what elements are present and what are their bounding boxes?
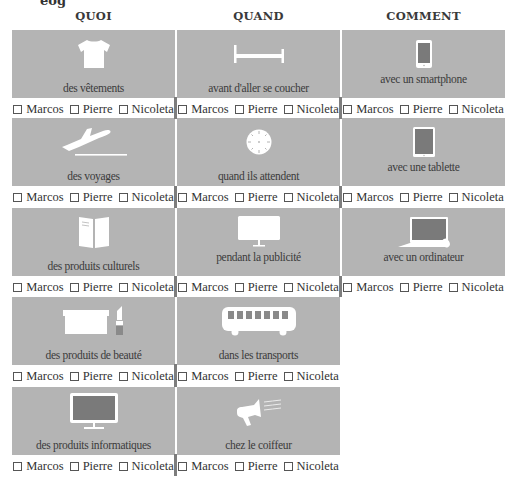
airplane-takeoff-icon: [12, 121, 175, 163]
card-box: avec un smartphone: [342, 30, 505, 98]
card-box: des produits informatiques: [12, 387, 175, 455]
column-heading: QUOI: [12, 9, 175, 23]
checkbox-row: Marcos Pierre Nicoleta: [342, 277, 505, 297]
checkbox-marcos[interactable]: Marcos: [343, 102, 394, 117]
checkbox-marcos[interactable]: Marcos: [178, 459, 229, 474]
bus-icon: [177, 300, 340, 342]
smartphone-icon: [342, 33, 505, 75]
card-label: des produits culturels: [12, 260, 175, 272]
checkbox-nicoleta[interactable]: Nicoleta: [119, 102, 174, 117]
checkbox-row: Marcos Pierre Nicoleta: [12, 187, 175, 207]
tablet-icon: [342, 121, 505, 163]
checkbox-marcos[interactable]: Marcos: [13, 190, 64, 205]
checkbox-nicoleta[interactable]: Nicoleta: [284, 280, 339, 295]
megaphone-icon: [177, 390, 340, 432]
checkbox-marcos[interactable]: Marcos: [178, 369, 229, 384]
checkbox-row: Marcos Pierre Nicoleta: [12, 366, 175, 386]
checkbox-pierre[interactable]: Pierre: [400, 280, 443, 295]
checkbox-row: Marcos Pierre Nicoleta: [177, 187, 340, 207]
checkbox-pierre[interactable]: Pierre: [235, 102, 278, 117]
checkbox-row: Marcos Pierre Nicoleta: [177, 456, 340, 476]
column-heading: COMMENT: [342, 9, 505, 23]
column-heading: QUAND: [177, 9, 340, 23]
checkbox-pierre[interactable]: Pierre: [235, 459, 278, 474]
checkbox-nicoleta[interactable]: Nicoleta: [284, 190, 339, 205]
tshirt-icon: [12, 33, 175, 75]
card-label: pendant la publicité: [177, 251, 340, 263]
checkbox-nicoleta[interactable]: Nicoleta: [284, 369, 339, 384]
checkbox-row: Marcos Pierre Nicoleta: [177, 99, 340, 119]
card-box: avec un ordinateur: [342, 208, 505, 276]
card-label: avec un ordinateur: [342, 251, 505, 263]
checkbox-pierre[interactable]: Pierre: [70, 459, 113, 474]
card-label: chez le coiffeur: [177, 439, 340, 451]
checkbox-nicoleta[interactable]: Nicoleta: [449, 190, 504, 205]
checkbox-row: Marcos Pierre Nicoleta: [12, 99, 175, 119]
checkbox-pierre[interactable]: Pierre: [235, 190, 278, 205]
computer-monitor-icon: [12, 390, 175, 432]
checkbox-nicoleta[interactable]: Nicoleta: [119, 459, 174, 474]
card-box: des voyages: [12, 118, 175, 186]
card-box: avant d'aller se coucher: [177, 30, 340, 98]
card-box: des produits de beauté: [12, 297, 175, 365]
card-box: quand ils attendent: [177, 118, 340, 186]
checkbox-row: Marcos Pierre Nicoleta: [12, 277, 175, 297]
checkbox-row: Marcos Pierre Nicoleta: [177, 366, 340, 386]
card-box: avec une tablette: [342, 118, 505, 186]
tv-screen-icon: [177, 211, 340, 253]
checkbox-marcos[interactable]: Marcos: [13, 459, 64, 474]
checkbox-pierre[interactable]: Pierre: [400, 102, 443, 117]
checkbox-pierre[interactable]: Pierre: [70, 190, 113, 205]
card-box: des produits culturels: [12, 208, 175, 276]
checkbox-row: Marcos Pierre Nicoleta: [342, 99, 505, 119]
checkbox-nicoleta[interactable]: Nicoleta: [119, 190, 174, 205]
checkbox-marcos[interactable]: Marcos: [13, 369, 64, 384]
cut-off-heading: eog: [40, 0, 66, 8]
checkbox-nicoleta[interactable]: Nicoleta: [449, 102, 504, 117]
checkbox-marcos[interactable]: Marcos: [178, 280, 229, 295]
checkbox-marcos[interactable]: Marcos: [178, 102, 229, 117]
card-label: dans les transports: [177, 349, 340, 361]
checkbox-nicoleta[interactable]: Nicoleta: [119, 280, 174, 295]
card-box: chez le coiffeur: [177, 387, 340, 455]
bed-icon: [177, 33, 340, 75]
card-label: avec un smartphone: [342, 73, 505, 85]
book-icon: [12, 211, 175, 253]
card-box: dans les transports: [177, 297, 340, 365]
checkbox-pierre[interactable]: Pierre: [235, 280, 278, 295]
checkbox-nicoleta[interactable]: Nicoleta: [449, 280, 504, 295]
card-label: quand ils attendent: [177, 170, 340, 182]
checkbox-marcos[interactable]: Marcos: [13, 280, 64, 295]
checkbox-row: Marcos Pierre Nicoleta: [342, 187, 505, 207]
clock-icon: [177, 121, 340, 163]
card-label: des voyages: [12, 170, 175, 182]
checkbox-pierre[interactable]: Pierre: [235, 369, 278, 384]
card-label: avant d'aller se coucher: [177, 82, 340, 94]
checkbox-pierre[interactable]: Pierre: [70, 280, 113, 295]
card-box: pendant la publicité: [177, 208, 340, 276]
checkbox-pierre[interactable]: Pierre: [400, 190, 443, 205]
card-label: avec une tablette: [342, 161, 505, 173]
checkbox-marcos[interactable]: Marcos: [343, 280, 394, 295]
checkbox-row: Marcos Pierre Nicoleta: [12, 456, 175, 476]
checkbox-pierre[interactable]: Pierre: [70, 102, 113, 117]
box-lipstick-icon: [12, 300, 175, 342]
checkbox-pierre[interactable]: Pierre: [70, 369, 113, 384]
checkbox-marcos[interactable]: Marcos: [13, 102, 64, 117]
card-label: des produits de beauté: [12, 349, 175, 361]
card-label: des produits informatiques: [12, 439, 175, 451]
laptop-icon: [342, 211, 505, 253]
checkbox-marcos[interactable]: Marcos: [178, 190, 229, 205]
checkbox-nicoleta[interactable]: Nicoleta: [284, 102, 339, 117]
checkbox-marcos[interactable]: Marcos: [343, 190, 394, 205]
card-box: des vêtements: [12, 30, 175, 98]
checkbox-row: Marcos Pierre Nicoleta: [177, 277, 340, 297]
checkbox-nicoleta[interactable]: Nicoleta: [284, 459, 339, 474]
checkbox-nicoleta[interactable]: Nicoleta: [119, 369, 174, 384]
card-label: des vêtements: [12, 82, 175, 94]
